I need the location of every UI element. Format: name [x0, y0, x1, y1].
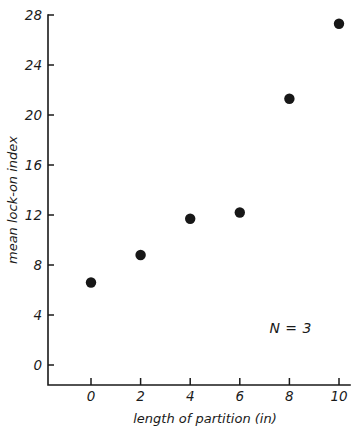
- data-point: [235, 207, 245, 217]
- y-tick-label: 24: [25, 57, 42, 73]
- data-point: [334, 19, 344, 29]
- x-axis-tick-labels: 0246810: [87, 388, 348, 404]
- y-tick-label: 16: [25, 157, 42, 173]
- data-point: [284, 94, 294, 104]
- y-tick-label: 12: [25, 207, 42, 223]
- x-axis-title: length of partition (in): [133, 411, 277, 426]
- x-tick-label: 10: [330, 388, 347, 404]
- y-tick-label: 0: [33, 357, 42, 373]
- x-tick-label: 0: [87, 388, 96, 404]
- y-axis-ticks: [48, 15, 54, 365]
- y-tick-label: 8: [33, 257, 42, 273]
- x-tick-label: 6: [236, 388, 245, 404]
- data-point: [185, 214, 195, 224]
- data-point: [135, 250, 145, 260]
- y-tick-label: 28: [25, 7, 42, 23]
- y-axis-title: mean lock-on index: [5, 136, 20, 264]
- x-axis-ticks: [91, 378, 339, 385]
- chart-annotations: N = 3: [269, 320, 312, 336]
- sample-size-annotation: N = 3: [269, 320, 312, 336]
- y-axis-tick-labels: 0481216202428: [25, 7, 42, 373]
- y-tick-label: 4: [33, 307, 42, 323]
- scatter-plot-figure: 0481216202428 0246810 N = 3 length of pa…: [0, 0, 356, 429]
- data-point: [86, 277, 96, 287]
- x-tick-label: 4: [186, 388, 195, 404]
- data-point-series: [86, 19, 344, 288]
- x-tick-label: 2: [136, 388, 145, 404]
- plot-canvas: 0481216202428 0246810 N = 3 length of pa…: [0, 0, 356, 429]
- y-tick-label: 20: [25, 107, 42, 123]
- x-tick-label: 8: [285, 388, 294, 404]
